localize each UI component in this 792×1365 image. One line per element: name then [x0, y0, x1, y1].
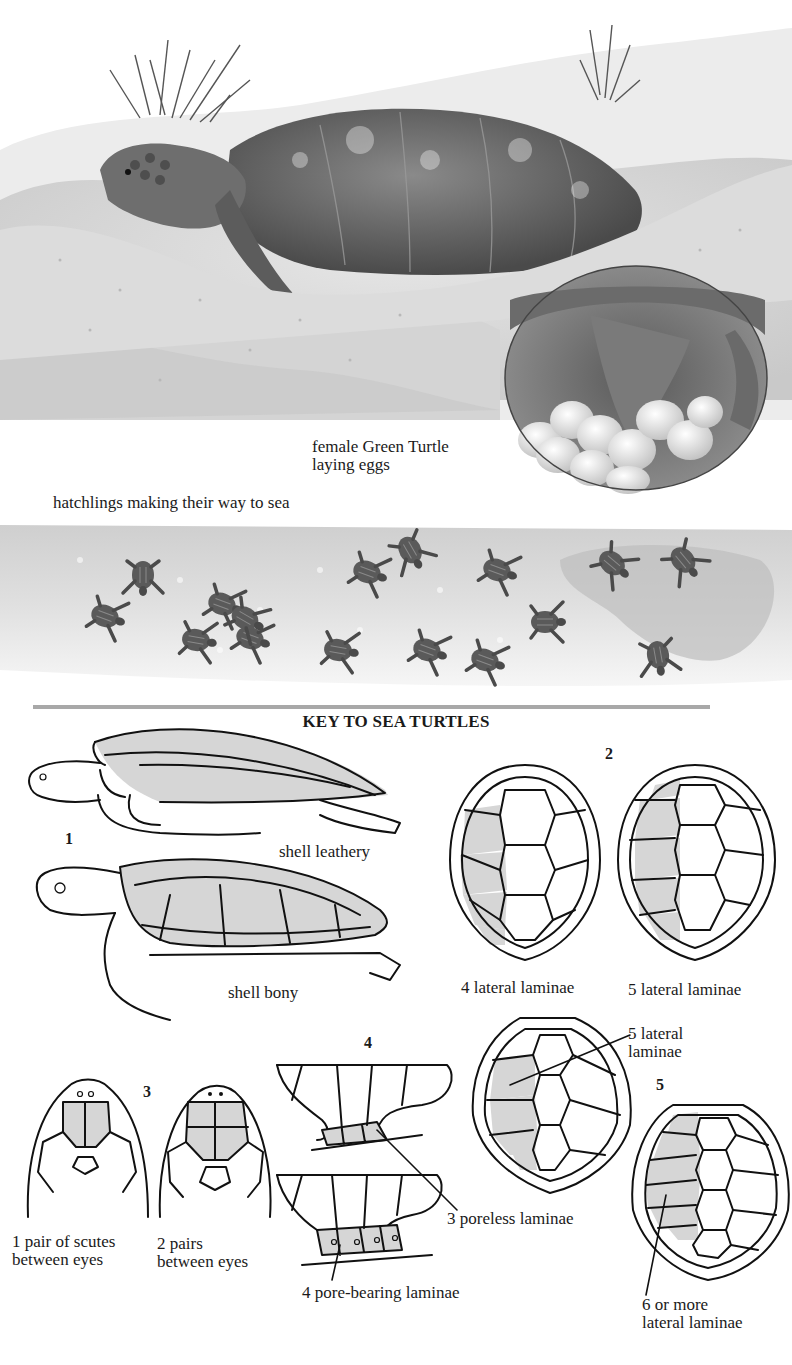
label-5-lateral-laminae-heart: 5 lateral laminae — [628, 1025, 683, 1061]
label-two-pairs: 2 pairs between eyes — [157, 1235, 248, 1271]
label-one-pair-line1: 1 pair of scutes — [12, 1233, 115, 1251]
section-divider — [33, 705, 710, 709]
nesting-caption-line1: female Green Turtle — [312, 438, 449, 456]
section5-number-label: 5 — [656, 1076, 664, 1094]
label-6-lateral-line2: lateral laminae — [642, 1314, 743, 1332]
egg-inset — [505, 266, 767, 494]
label-6-lateral-line1: 6 or more — [642, 1296, 743, 1314]
section1-number-label: 1 — [65, 830, 73, 848]
carapace-5-laterals-heart — [465, 1015, 645, 1195]
label-4-lateral-laminae: 4 lateral laminae — [461, 979, 574, 997]
section4-number-label: 4 — [364, 1034, 372, 1052]
pointer-poreless — [377, 1130, 457, 1210]
leatherback-turtle-drawing — [29, 729, 400, 834]
section3-diagrams — [18, 1072, 288, 1222]
carapace-5-laterals — [618, 765, 775, 960]
section2-diagrams — [445, 760, 785, 970]
carapace-4-laterals — [450, 765, 600, 960]
hatchlings-scene-image — [0, 520, 792, 695]
bony-shell-turtle-drawing — [37, 859, 400, 1020]
bridge-poreless-laminae — [277, 1065, 452, 1150]
label-one-pair-scutes: 1 pair of scutes between eyes — [12, 1233, 115, 1269]
label-5-lateral-line1: 5 lateral — [628, 1025, 683, 1043]
hatchlings-caption: hatchlings making their way to sea — [53, 494, 290, 512]
bridge-pore-bearing-laminae — [277, 1175, 442, 1265]
label-one-pair-line2: between eyes — [12, 1251, 115, 1269]
nesting-caption-line2: laying eggs — [312, 456, 449, 474]
label-shell-bony: shell bony — [228, 984, 298, 1002]
label-6-or-more-lateral-laminae: 6 or more lateral laminae — [642, 1296, 743, 1332]
label-shell-leathery: shell leathery — [279, 843, 370, 861]
label-5-lateral-line2: laminae — [628, 1043, 683, 1061]
label-two-pairs-line2: between eyes — [157, 1253, 248, 1271]
label-two-pairs-line1: 2 pairs — [157, 1235, 248, 1253]
head-one-pair-scutes — [28, 1080, 148, 1218]
carapace-6-laterals — [628, 1100, 792, 1290]
label-5-lateral-laminae: 5 lateral laminae — [628, 981, 741, 999]
section4-diagrams — [272, 1060, 472, 1300]
label-4-pore-bearing-laminae: 4 pore-bearing laminae — [302, 1284, 460, 1302]
head-two-pairs-scutes — [160, 1086, 271, 1217]
hatchlings-illustration — [0, 520, 792, 695]
nesting-scene-image — [0, 0, 792, 480]
label-3-poreless-laminae: 3 poreless laminae — [447, 1210, 574, 1228]
nesting-turtle-illustration — [0, 0, 792, 480]
nesting-caption-text: female Green Turtle laying eggs — [312, 438, 449, 474]
